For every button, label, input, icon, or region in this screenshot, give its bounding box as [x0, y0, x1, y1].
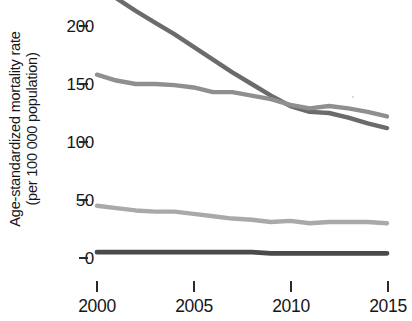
line-series-4	[97, 252, 387, 253]
line-series-2	[97, 75, 387, 117]
series-lines	[97, 0, 387, 253]
line-series-3	[97, 206, 387, 223]
